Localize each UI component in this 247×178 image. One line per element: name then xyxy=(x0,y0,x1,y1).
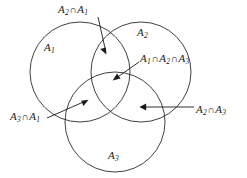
set-label-a1: A1 xyxy=(44,42,55,53)
arrow-a2-a1 xyxy=(98,17,106,55)
a1a2a3-part-7: 3 xyxy=(186,57,190,66)
intersection-label-a3-a1: A3∩A1 xyxy=(10,111,40,122)
intersection-label-a2-a3: A2∩A3 xyxy=(196,104,226,115)
a1a2a3-part-4: 2 xyxy=(166,57,170,66)
arrow-a2-a3 xyxy=(139,104,194,111)
arrow-a1-a2-a3 xyxy=(113,62,139,81)
a2a1-part-1: 2 xyxy=(65,8,69,17)
a3a1-part-0: A xyxy=(10,110,17,122)
venn-diagram-canvas xyxy=(0,0,247,178)
intersection-label-a1-a2-a3: A1∩A2∩A3 xyxy=(140,53,189,64)
a2a1-part-0: A xyxy=(58,3,65,15)
a2a3-part-0: A xyxy=(196,103,203,115)
a3a1-part-1: 3 xyxy=(17,115,21,124)
set-label-a2-base: A xyxy=(137,26,144,38)
set-label-a1-base: A xyxy=(44,41,51,53)
set-label-a3: A3 xyxy=(108,150,119,161)
set-label-a1-sub: 1 xyxy=(51,46,55,55)
arrow-a3-a1 xyxy=(47,100,89,118)
set-label-a3-base: A xyxy=(108,149,115,161)
a1a2a3-part-0: A xyxy=(140,52,147,64)
a2a3-part-1: 2 xyxy=(203,108,207,117)
a2a3-part-4: 3 xyxy=(222,108,226,117)
a3a1-part-4: 1 xyxy=(36,115,40,124)
a1a2a3-operator-2: ∩ xyxy=(170,53,178,64)
a1a2a3-part-1: 1 xyxy=(147,57,151,66)
set-label-a3-sub: 3 xyxy=(115,154,119,163)
intersection-label-a2-a1: A2∩A1 xyxy=(58,4,88,15)
venn-diagram-figure: A1 A2 A3 A2∩A1 A1∩A2∩A3 A3∩A1 A2∩A3 xyxy=(0,0,247,178)
set-label-a2-sub: 2 xyxy=(144,31,148,40)
a1a2a3-part-6: A xyxy=(179,52,186,64)
set-label-a2: A2 xyxy=(137,27,148,38)
a2a1-part-4: 1 xyxy=(84,8,88,17)
